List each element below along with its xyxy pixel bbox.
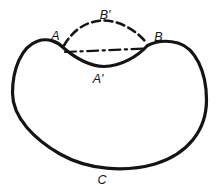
main-closed-curve (13, 40, 207, 169)
label-outer-arc-b-prime: B' (100, 8, 111, 22)
topology-curve-diagram: A B B' A' C (0, 0, 221, 192)
diagram-canvas: A B B' A' C (0, 0, 221, 192)
label-main-curve-c: C (97, 173, 107, 187)
label-inner-arc-a-prime: A' (92, 72, 104, 86)
dashed-outer-arc (64, 21, 147, 46)
label-point-b: B (154, 30, 162, 44)
dash-dot-chord (65, 49, 146, 53)
label-point-a: A (50, 29, 59, 43)
